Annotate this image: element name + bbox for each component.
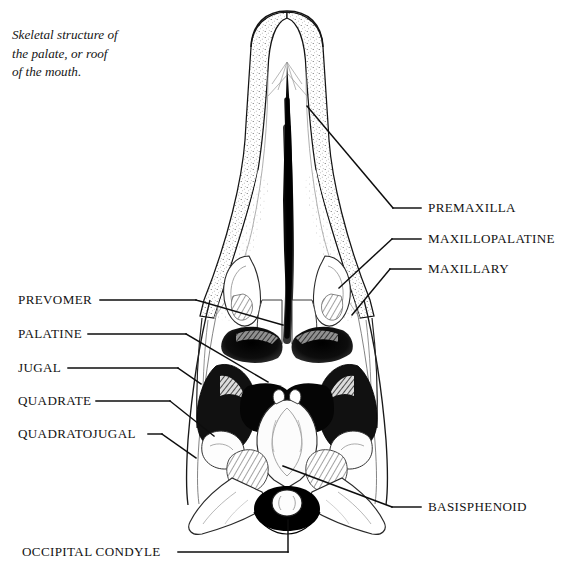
label-quadratojugal: QUADRATOJUGAL: [18, 426, 136, 442]
label-prevomer: PREVOMER: [18, 292, 92, 308]
label-quadrate: QUADRATE: [18, 393, 91, 409]
label-basisphenoid: BASISPHENOID: [428, 499, 527, 515]
label-jugal: JUGAL: [18, 360, 61, 376]
caption-line-2: the palate, or roof: [12, 45, 162, 64]
leader-quadratojugal-diag: [162, 434, 196, 458]
label-maxillopalatine: MAXILLOPALATINE: [428, 231, 555, 247]
occipital-region: [189, 478, 386, 534]
skull-drawing: [187, 11, 388, 534]
figure-caption: Skeletal structure of the palate, or roo…: [12, 26, 162, 82]
skull-illustration: [0, 0, 575, 581]
figure-page: Skeletal structure of the palate, or roo…: [0, 0, 575, 581]
caption-line-3: of the mouth.: [12, 63, 162, 82]
label-occipital-condyle: OCCIPITAL CONDYLE: [22, 544, 161, 560]
label-maxillary: MAXILLARY: [428, 261, 509, 277]
label-premaxilla: PREMAXILLA: [428, 200, 516, 216]
label-palatine: PALATINE: [18, 326, 82, 342]
caption-line-1: Skeletal structure of: [12, 26, 162, 45]
